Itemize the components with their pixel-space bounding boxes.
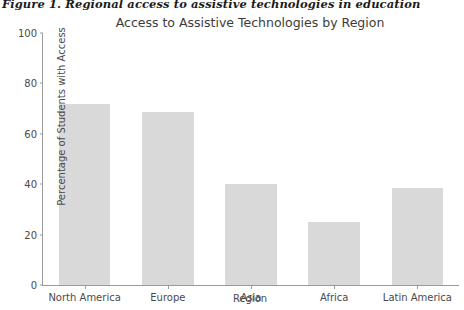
y-axis-label: Percentage of Students with Access — [56, 22, 67, 212]
ytick-label-20: 20 — [24, 229, 43, 240]
bar-north-america[interactable] — [59, 104, 111, 285]
bar-slot — [209, 33, 292, 285]
ytick-label-100: 100 — [18, 28, 43, 39]
bar-europe[interactable] — [142, 112, 194, 285]
ytick-label-60: 60 — [24, 128, 43, 139]
bar-slot — [126, 33, 209, 285]
bar-series — [43, 33, 459, 285]
x-axis-label: Region — [42, 293, 458, 304]
bar-asia[interactable] — [225, 184, 277, 285]
ytick-label-40: 40 — [24, 179, 43, 190]
ytick-label-80: 80 — [24, 78, 43, 89]
chart-title: Access to Assistive Technologies by Regi… — [36, 15, 464, 30]
bar-africa[interactable] — [308, 222, 360, 285]
plot-area: 0 20 40 60 80 100 — [42, 33, 459, 286]
bar-slot — [293, 33, 376, 285]
figure-container: Figure 1. Regional access to assistive t… — [0, 0, 464, 310]
bar-slot — [376, 33, 459, 285]
ytick-label-0: 0 — [31, 280, 43, 291]
figure-caption: Figure 1. Regional access to assistive t… — [2, 0, 462, 11]
bar-latin-america[interactable] — [392, 188, 444, 285]
